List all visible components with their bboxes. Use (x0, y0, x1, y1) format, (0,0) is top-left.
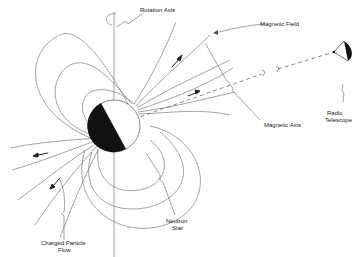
open-field-line-8 (12, 140, 98, 170)
neutron-star-leader (146, 153, 175, 215)
radio-telescope-leader (342, 84, 344, 102)
open-field-line-11 (60, 146, 100, 238)
open-field-line-1 (134, 22, 176, 104)
neutron-star-label-line1: Neutron (166, 218, 187, 225)
arrowhead-left (33, 153, 38, 157)
outflow-arrow-left (38, 153, 48, 155)
open-field-line-10 (35, 144, 99, 225)
magnetic-axis-leader (205, 43, 260, 120)
open-field-line-9 (18, 142, 98, 200)
outflow-arrow-lower-left (53, 178, 60, 186)
charged-particle-flow-label-line1: Charged Particle (41, 240, 86, 247)
rotation-curl-icon (106, 14, 116, 25)
open-field-line-2 (136, 35, 210, 106)
open-field-line-6 (138, 111, 230, 115)
magnetic-axis-label: Magnetic Axis (264, 122, 301, 129)
neutron-star (87, 100, 140, 152)
neutron-star-label-line2: Star (172, 225, 183, 232)
radio-telescope-label-line1: Radio (327, 110, 343, 117)
open-field-line-7 (10, 138, 98, 148)
arrowhead-right (195, 90, 200, 94)
break-mark-right (276, 66, 279, 72)
magnetic-axis-beam-far (278, 52, 334, 69)
magnetic-field-leader (215, 24, 265, 33)
magnetic-field-label: Magnetic Field (260, 21, 299, 28)
charged-particle-flow-label-line2: Flow (58, 247, 71, 254)
open-field-line-3 (137, 60, 230, 108)
open-field-line-5 (138, 92, 235, 112)
radio-telescope-label-line2: Telescope (325, 117, 352, 124)
open-field-line-4 (138, 68, 233, 110)
break-mark-left (262, 70, 265, 76)
rotation-axis-label: Rotation Axis (140, 7, 175, 14)
arrowhead-upper (177, 55, 182, 61)
magnetic-field-pointer-icon (213, 30, 218, 35)
radio-telescope-icon (333, 41, 352, 61)
pulsar-diagram: Rotation Axis Magnetic Field Radio Teles… (0, 0, 360, 257)
rotation-axis-leader (116, 14, 142, 27)
